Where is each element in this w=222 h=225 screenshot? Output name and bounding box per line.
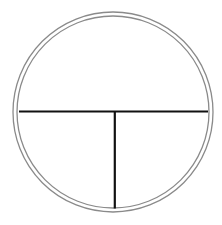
diagram-canvas [0,0,222,225]
circle-diagram [0,0,222,225]
